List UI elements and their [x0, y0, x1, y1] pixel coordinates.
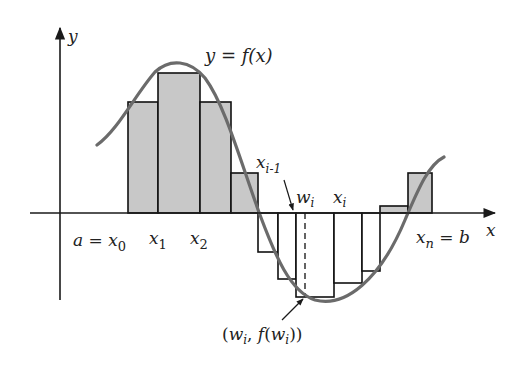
curve-label: y = f(x) [204, 45, 273, 66]
bar-6 [278, 213, 296, 279]
riemann-sum-diagram: y x y = f(x) a = x0 x1 x2 xi-1 wi xi xn … [0, 0, 524, 369]
label-a-x0: a = x0 [73, 230, 126, 254]
label-xn-b: xn = b [416, 227, 470, 251]
bar-9 [362, 213, 380, 271]
bar-8 [334, 213, 362, 283]
point-label: (wi, f(wi)) [222, 324, 302, 347]
label-x2: x2 [190, 228, 208, 252]
label-x1: x1 [149, 228, 167, 252]
bar-10 [380, 206, 408, 213]
label-xi: xi [333, 187, 347, 210]
label-wi: wi [296, 187, 315, 210]
bar-1 [128, 102, 158, 213]
label-xi-minus-1: xi-1 [256, 152, 281, 176]
y-axis-label: y [67, 26, 78, 46]
x-axis-label: x [486, 220, 496, 240]
bar-7-wi [296, 213, 334, 297]
bar-4 [231, 173, 258, 213]
point-pointer [282, 299, 303, 320]
xi-minus-1-pointer [284, 180, 293, 210]
bar-2 [158, 73, 200, 213]
